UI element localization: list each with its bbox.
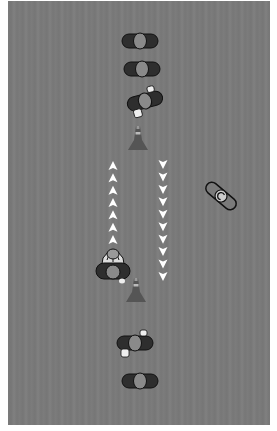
arrow-chevron-icon <box>109 235 118 244</box>
arrow-chevron-icon <box>109 198 118 207</box>
arrow-chevron-icon <box>159 172 168 181</box>
arrow-chevron-icon <box>109 186 118 195</box>
arrow-chevron-icon <box>159 222 168 231</box>
drill-diagram <box>0 0 277 431</box>
arrow-chevron-icon <box>109 223 118 232</box>
arrow-chevron-icon <box>159 160 168 169</box>
arrow-chevron-icon <box>109 173 118 182</box>
player-p6-icon <box>117 330 153 357</box>
player-p7-icon <box>122 373 158 389</box>
arrow-up-lane-icon <box>109 161 118 244</box>
player-p3-icon <box>124 84 166 119</box>
arrow-chevron-icon <box>159 210 168 219</box>
arrow-down-lane-icon <box>159 160 168 281</box>
arrow-chevron-icon <box>109 161 118 170</box>
arrow-chevron-icon <box>109 210 118 219</box>
arrow-chevron-icon <box>159 197 168 206</box>
player-p5-icon <box>96 249 130 284</box>
cone-bottom-icon <box>126 278 146 302</box>
arrow-chevron-icon <box>159 235 168 244</box>
arrow-chevron-icon <box>159 260 168 269</box>
player-p4-icon <box>203 180 238 212</box>
arrow-chevron-icon <box>159 247 168 256</box>
cone-top-icon <box>128 126 148 150</box>
arrow-chevron-icon <box>159 272 168 281</box>
arrow-chevron-icon <box>159 185 168 194</box>
player-p1-icon <box>122 33 158 49</box>
player-p2-icon <box>124 61 160 77</box>
